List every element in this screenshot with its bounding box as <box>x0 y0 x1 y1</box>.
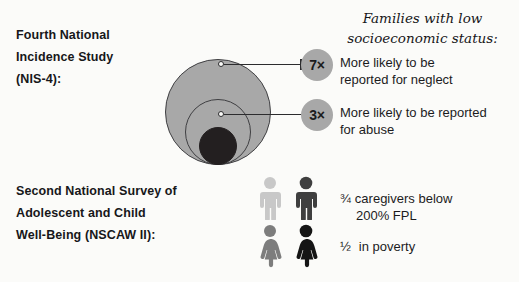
fpl-text-line-1: caregivers below <box>355 191 453 206</box>
person-pictogram-group <box>255 176 335 276</box>
connector-line-segment <box>224 64 302 66</box>
concentric-circle-diagram <box>160 18 310 168</box>
nis4-label-line-1: Fourth National <box>16 24 166 46</box>
fpl-poverty-stat: ¾caregivers below 200% FPL <box>340 190 515 224</box>
neglect-text-line-2: reported for neglect <box>340 71 515 88</box>
fpl-text-line-2: 200% FPL <box>340 207 515 224</box>
nis4-label-line-2: Incidence Study <box>16 46 166 68</box>
neglect-stat-text: More likely to be reported for neglect <box>340 54 515 88</box>
in-poverty-text: in poverty <box>359 239 415 254</box>
nscaw-study-label: Second National Survey of Adolescent and… <box>16 180 226 246</box>
fpl-fraction: ¾ <box>340 191 351 206</box>
ses-heading-line-2: socioeconomic status: <box>330 28 515 48</box>
neglect-connector-line <box>218 59 302 71</box>
neglect-text-line-1: More likely to be <box>340 54 515 71</box>
in-poverty-stat: ½in poverty <box>340 238 515 255</box>
person-female-gray-icon <box>255 224 285 268</box>
inner-circle <box>199 127 237 165</box>
abuse-text-line-2: for abuse <box>340 121 519 138</box>
neglect-multiplier-badge: 7× <box>301 49 333 81</box>
person-female-black-icon <box>291 224 321 268</box>
connector-line-segment <box>224 114 306 116</box>
nscaw-label-line-3: Well-Being (NSCAW II): <box>16 224 226 246</box>
nscaw-label-line-2: Adolescent and Child <box>16 202 226 224</box>
person-male-dark-icon <box>291 176 321 220</box>
nis4-study-label: Fourth National Incidence Study (NIS-4): <box>16 24 166 90</box>
abuse-multiplier-badge: 3× <box>301 99 333 131</box>
socioeconomic-status-heading: Families with low socioeconomic status: <box>330 8 515 48</box>
infographic-canvas: Fourth National Incidence Study (NIS-4):… <box>0 0 519 282</box>
person-male-light-icon <box>255 176 285 220</box>
abuse-text-line-1: More likely to be reported <box>340 104 519 121</box>
nis4-label-line-3: (NIS-4): <box>16 68 166 90</box>
ses-heading-line-1: Families with low <box>330 8 515 28</box>
in-poverty-fraction: ½ <box>340 239 351 254</box>
abuse-connector-line <box>218 109 306 121</box>
fpl-stat-line-1: ¾caregivers below <box>340 190 515 207</box>
in-poverty-line: ½in poverty <box>340 238 515 255</box>
nscaw-label-line-1: Second National Survey of <box>16 180 226 202</box>
abuse-stat-text: More likely to be reported for abuse <box>340 104 519 138</box>
